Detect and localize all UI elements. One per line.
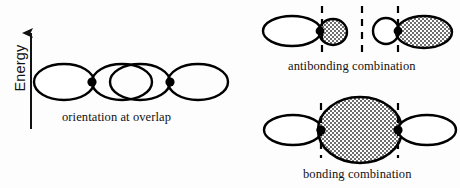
bonding-lobe-left-white [264,115,322,145]
orbital-lobe-right-outer [168,64,228,100]
orbital-lobe-right-inner [110,64,170,100]
antibonding-lobe-large-shaded [396,16,452,48]
bonding-lobe-right-white [398,115,456,145]
bonding-lobe-center-shaded [318,97,402,163]
nucleus-dot-right [165,77,174,86]
caption-orientation-at-overlap: orientation at overlap [62,110,171,125]
panel-antibonding-combination [263,6,452,55]
nucleus-dot-left [87,77,96,86]
caption-bonding-combination: bonding combination [303,167,412,182]
orbital-combination-figure: Energy orientation at overlap antibondin… [0,0,460,188]
energy-axis-label: Energy [12,32,28,104]
antibonding-lobe-large-white [263,16,321,46]
caption-antibonding-combination: antibonding combination [288,59,416,74]
panel-bonding-combination [264,97,456,163]
diagram-canvas [0,0,460,188]
panel-orientation-at-overlap [34,64,228,100]
orbital-lobe-left-outer [34,64,94,100]
orbital-lobe-left-inner [92,64,152,100]
